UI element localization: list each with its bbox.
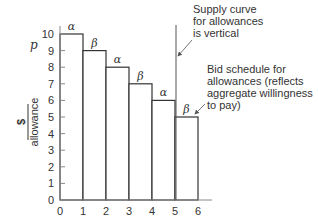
x-tick-label: 4	[149, 205, 155, 217]
x-tick-label: 3	[126, 205, 132, 217]
svg-text:allowances (reflects: allowances (reflects	[207, 75, 304, 87]
bar	[152, 100, 175, 200]
y-tick-label: 7	[48, 78, 54, 90]
x-tick-label: 0	[57, 205, 63, 217]
bar	[106, 67, 129, 200]
y-tick-label: 6	[48, 94, 54, 106]
y-tick-label: 0	[48, 194, 54, 206]
bar	[83, 51, 106, 200]
y-axis-label: $ allowance	[15, 98, 40, 147]
chart-canvas: αβαβαβ 012345678910 0123456 p $ allowanc…	[0, 0, 318, 223]
svg-text:is vertical: is vertical	[193, 27, 239, 39]
y-tick-label: 3	[48, 144, 54, 156]
price-symbol: p	[30, 38, 38, 52]
x-axis-ticks: 0123456	[57, 205, 201, 217]
bid-schedule-annotation: Bid schedule for allowances (reflects ag…	[195, 63, 313, 114]
bar-label: α	[160, 86, 168, 99]
supply-arrow	[178, 40, 192, 56]
bar-label: β	[182, 103, 189, 116]
svg-text:to pay): to pay)	[207, 99, 241, 111]
bid-schedule-bars	[60, 34, 198, 200]
y-tick-label: 10	[42, 28, 54, 40]
y-tick-label: 8	[48, 61, 54, 73]
bar	[175, 117, 198, 200]
bar	[129, 84, 152, 200]
y-tick-label: 2	[48, 161, 54, 173]
bar-label: α	[114, 53, 122, 66]
x-tick-label: 5	[172, 205, 178, 217]
y-tick-label: 9	[48, 45, 54, 57]
bar-label: β	[136, 70, 143, 83]
bar-label: β	[90, 37, 97, 50]
supply-annotation: Supply curve for allowances is vertical	[178, 3, 264, 56]
svg-text:Bid schedule for: Bid schedule for	[207, 63, 286, 75]
x-tick-label: 1	[80, 205, 86, 217]
svg-text:for allowances: for allowances	[193, 15, 264, 27]
y-label-numerator: $	[15, 119, 27, 125]
svg-text:aggregate willingness: aggregate willingness	[207, 87, 313, 99]
x-tick-label: 2	[103, 205, 109, 217]
svg-text:Supply curve: Supply curve	[193, 3, 257, 15]
y-tick-label: 5	[48, 111, 54, 123]
y-tick-label: 4	[48, 128, 54, 140]
bid-arrow	[195, 104, 205, 114]
y-label-denominator: allowance	[28, 98, 40, 147]
x-tick-label: 6	[195, 205, 201, 217]
y-tick-label: 1	[48, 177, 54, 189]
bar-label: α	[68, 20, 76, 33]
